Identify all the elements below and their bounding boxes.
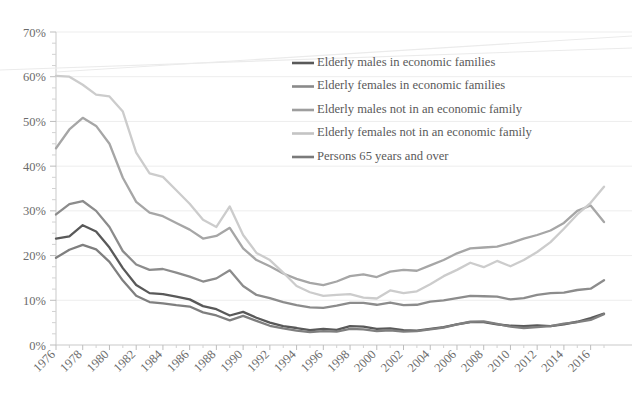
y-tick-label: 60%: [23, 70, 46, 84]
y-axis-tick-labels: 0%10%20%30%40%50%60%70%: [23, 26, 46, 353]
x-tick-label: 1986: [164, 347, 192, 375]
y-tick-label: 20%: [23, 249, 46, 263]
x-tick-label: 1994: [271, 347, 299, 375]
legend-label-4: Persons 65 years and over: [317, 149, 449, 163]
decorative-diagonal-line: [0, 36, 632, 72]
x-tick-label: 2016: [565, 347, 593, 375]
x-tick-label: 2004: [405, 347, 433, 375]
x-tick-label: 1988: [191, 347, 219, 375]
x-axis-tick-labels: 1976197819801982198419861988199019921994…: [31, 347, 593, 375]
series-line-0: [56, 225, 604, 331]
y-tick-label: 50%: [23, 115, 46, 129]
x-tick-label: 1984: [137, 347, 165, 375]
x-tick-label: 1996: [298, 347, 326, 375]
stray-line-lower: [0, 48, 632, 70]
x-tick-label: 2014: [538, 347, 566, 375]
series-line-2: [56, 201, 604, 308]
legend-label-0: Elderly males in economic families: [317, 55, 495, 69]
line-chart: 0%10%20%30%40%50%60%70% 1976197819801982…: [0, 0, 632, 410]
x-tick-label: 2012: [512, 347, 540, 375]
x-tick-label: 1998: [325, 347, 353, 375]
chart-legend: Elderly males in economic familiesElderl…: [292, 55, 532, 163]
x-tick-label: 2010: [485, 347, 513, 375]
x-tick-label: 1992: [244, 347, 272, 375]
x-tick-label: 2002: [378, 347, 406, 375]
x-tick-label: 2008: [458, 347, 486, 375]
y-tick-label: 10%: [23, 294, 46, 308]
grid-lines: [56, 32, 632, 300]
chart-container: 0%10%20%30%40%50%60%70% 1976197819801982…: [0, 0, 632, 410]
x-tick-label: 2006: [432, 347, 460, 375]
series-line-1: [56, 245, 604, 332]
x-tick-label: 1982: [111, 347, 139, 375]
y-tick-label: 70%: [23, 26, 46, 40]
x-tick-label: 1978: [57, 347, 85, 375]
x-tick-label: 1980: [84, 347, 112, 375]
legend-label-2: Elderly males not in an economic family: [317, 102, 523, 116]
y-tick-label: 30%: [23, 204, 46, 218]
x-tick-label: 1990: [218, 347, 246, 375]
x-tick-label: 2000: [351, 347, 379, 375]
legend-label-1: Elderly females in economic families: [317, 78, 505, 92]
y-tick-label: 40%: [23, 160, 46, 174]
legend-label-3: Elderly females not in an economic famil…: [317, 125, 532, 139]
y-tick-label: 0%: [29, 339, 46, 353]
